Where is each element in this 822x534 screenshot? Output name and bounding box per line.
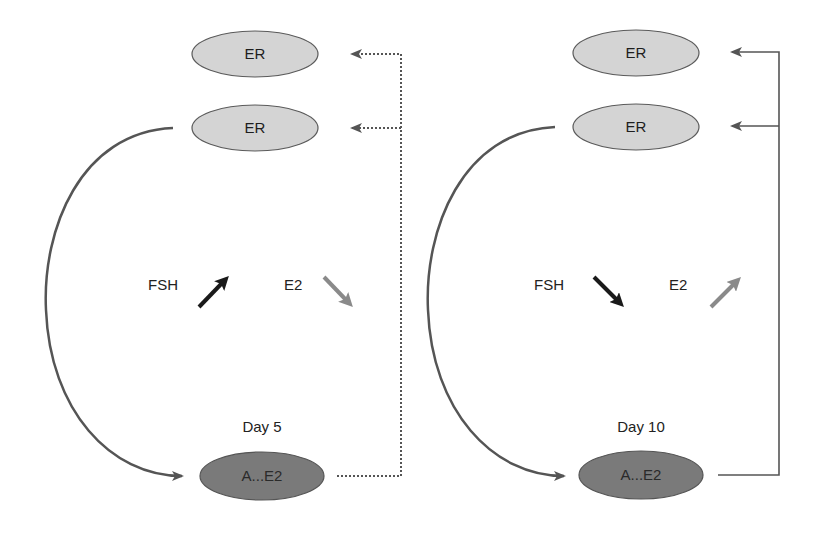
feedback-connector-solid bbox=[718, 52, 779, 475]
er-label: ER bbox=[626, 44, 647, 61]
er-node: ER bbox=[573, 30, 699, 76]
aromatase-e2-label: A...E2 bbox=[621, 466, 662, 483]
fsh-down-arrow-icon bbox=[594, 277, 620, 303]
er-label: ER bbox=[245, 119, 266, 136]
panel-day10: ER ER FSH E2 Day 10 A...E2 bbox=[428, 30, 779, 499]
curved-arrow bbox=[428, 127, 564, 476]
day-label: Day 10 bbox=[617, 418, 665, 435]
er-node: ER bbox=[573, 104, 699, 150]
feedback-line bbox=[718, 52, 779, 475]
fsh-label: FSH bbox=[534, 276, 564, 293]
er-feedback-diagram: ER ER FSH E2 Day 5 A...E2 bbox=[0, 0, 822, 534]
e2-label: E2 bbox=[284, 276, 302, 293]
er-label: ER bbox=[626, 118, 647, 135]
day-label: Day 5 bbox=[242, 418, 281, 435]
er-node: ER bbox=[192, 105, 318, 151]
aromatase-e2-node: A...E2 bbox=[579, 451, 703, 499]
er-label: ER bbox=[245, 45, 266, 62]
feedback-line bbox=[337, 54, 401, 476]
aromatase-e2-node: A...E2 bbox=[200, 452, 324, 500]
e2-down-arrow-icon bbox=[324, 277, 349, 303]
er-node: ER bbox=[192, 31, 318, 77]
panel-day5: ER ER FSH E2 Day 5 A...E2 bbox=[46, 31, 401, 500]
aromatase-e2-label: A...E2 bbox=[242, 467, 283, 484]
curved-arrow bbox=[46, 128, 182, 476]
e2-up-arrow-icon bbox=[711, 281, 737, 307]
e2-label: E2 bbox=[669, 276, 687, 293]
fsh-label: FSH bbox=[148, 276, 178, 293]
feedback-connector-dotted bbox=[337, 54, 401, 476]
fsh-up-arrow-icon bbox=[199, 280, 225, 307]
